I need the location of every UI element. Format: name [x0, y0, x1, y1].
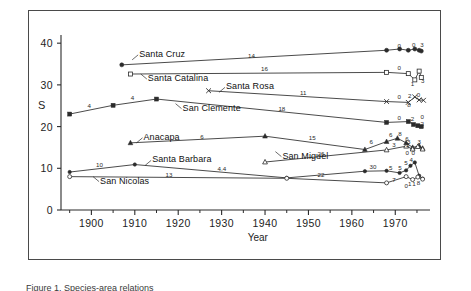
data-point-open-circle [421, 177, 425, 181]
y-tick-label: 10 [0, 162, 53, 174]
x-tick-label: 1920 [164, 217, 192, 229]
series-leader-line [132, 55, 138, 60]
segment-count-label: 5 [389, 164, 392, 171]
point-count-label: 1 [408, 180, 411, 187]
series-line [209, 91, 424, 103]
data-point-open-square [406, 72, 410, 76]
segment-count-label: 22 [317, 171, 324, 178]
segment-count-label: 14 [248, 52, 255, 59]
y-tick-label: 30 [0, 79, 53, 91]
segment-count-label: 5 [406, 141, 409, 148]
segment-count-label: 11 [300, 89, 306, 96]
data-point-open-square [417, 69, 421, 73]
x-tick-label: 1940 [251, 217, 279, 229]
segment-count-label: 8 [398, 130, 401, 137]
x-tick-label: 1970 [381, 217, 409, 229]
data-point-open-circle [285, 176, 289, 180]
x-tick-label: 1900 [77, 217, 105, 229]
series-leader-line [275, 152, 281, 157]
segment-count-label: 13 [166, 171, 173, 178]
point-count-label: 0 [398, 64, 401, 71]
y-tick-label: 20 [0, 121, 53, 133]
data-point-filled-circle [406, 48, 410, 52]
segment-count-label: 16 [261, 65, 268, 72]
series-leader-line [141, 74, 147, 79]
data-point-filled-circle-sm [404, 169, 407, 172]
point-count-label: 2 [411, 115, 414, 122]
point-count-label: 0 [417, 91, 420, 98]
data-point-filled-square [385, 120, 389, 124]
segment-count-label: 4 [87, 102, 90, 109]
data-point-filled-circle [419, 49, 423, 53]
point-count-label: 3 [418, 138, 421, 145]
point-count-label: 8 [407, 101, 410, 108]
point-count-label: 0 [398, 42, 401, 49]
segment-count-label: 15 [309, 134, 316, 141]
point-count-label: 0 [405, 182, 408, 189]
series-label-santa-catalina: Santa Catalina [148, 73, 208, 83]
data-point-open-circle [404, 175, 408, 179]
point-count-label: 3 [420, 41, 423, 48]
segment-count-label: 4 [131, 94, 134, 101]
x-tick-label: 1910 [121, 217, 149, 229]
segment-count-label: 6 [200, 133, 203, 140]
data-point-filled-circle [385, 48, 389, 52]
data-point-open-circle [68, 175, 72, 179]
x-tick-label: 1960 [338, 217, 366, 229]
data-point-filled-circle-sm [363, 170, 366, 173]
x-tick-label: 1950 [294, 217, 322, 229]
segment-count-label: 4 [410, 156, 413, 163]
segment-count-label: 4.4 [218, 165, 227, 172]
series-leader-line [145, 160, 151, 165]
data-point-filled-triangle [263, 134, 268, 139]
data-point-filled-square [412, 123, 416, 127]
data-point-filled-square [155, 97, 159, 101]
series-label-san-clemente: San Clemente [183, 103, 241, 113]
point-count-label: 3 [421, 77, 424, 84]
point-count-label: 0 [398, 114, 401, 121]
data-point-filled-square [68, 112, 72, 116]
segment-count-label: 5 [404, 159, 407, 166]
series-label-anacapa: Anacapa [143, 132, 179, 142]
data-point-filled-circle-sm [385, 169, 388, 172]
data-point-open-square [128, 72, 132, 76]
point-count-label: 0 [405, 149, 408, 156]
data-point-filled-circle [120, 63, 124, 67]
segment-count-label: 30 [370, 163, 377, 170]
point-count-label: 2 [408, 92, 411, 99]
point-count-label: 2 [421, 120, 424, 127]
point-count-label: 1 [412, 180, 415, 187]
data-point-filled-circle-sm [68, 170, 71, 173]
segment-count-label: 18 [278, 105, 285, 112]
segment-count-label: 6 [389, 131, 392, 138]
data-point-filled-circle-sm [413, 161, 416, 164]
figure-container: 0102030401900191019201930194019501960197… [0, 0, 471, 291]
series-san-clemente [68, 97, 424, 129]
y-tick-label: 0 [0, 204, 53, 216]
data-point-filled-circle-sm [398, 171, 401, 174]
point-count-label: 1 [411, 80, 414, 87]
point-count-label: 0 [412, 41, 415, 48]
data-point-filled-square [111, 103, 115, 107]
point-count-label: 8 [417, 179, 420, 186]
segment-count-label: 26 [317, 150, 324, 157]
series-leader-line [93, 177, 99, 182]
point-count-label: 0 [398, 93, 401, 100]
data-point-filled-circle-sm [409, 164, 412, 167]
series-label-san-nicolas: San Nicolas [100, 176, 149, 186]
segment-count-label: 7 [392, 176, 395, 183]
x-tick-label: 1930 [208, 217, 236, 229]
series-leader-line [176, 104, 182, 109]
series-label-santa-cruz: Santa Cruz [139, 49, 185, 59]
segment-count-label: 6 [370, 138, 373, 145]
series-label-santa-barbara: Santa Barbara [152, 154, 211, 164]
x-axis-title: Year [248, 232, 268, 243]
series-line [70, 99, 422, 127]
data-point-filled-circle-sm [133, 163, 136, 166]
figure-caption: Figure 1. Species-area relations [26, 283, 456, 291]
series-label-santa-rosa: Santa Rosa [226, 81, 274, 91]
y-axis-title: S [38, 99, 45, 111]
segment-count-label: 10 [96, 161, 103, 168]
segment-count-label: 3 [392, 141, 395, 148]
data-point-open-square [385, 70, 389, 74]
